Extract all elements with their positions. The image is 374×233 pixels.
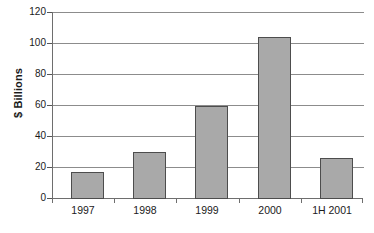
bar-1999[interactable] [195, 106, 228, 199]
x-tick-mark [301, 199, 302, 203]
y-tick-label: 60 [20, 100, 46, 110]
bar-2000[interactable] [258, 37, 291, 199]
x-tick-label-1998: 1998 [114, 204, 176, 217]
x-tick-mark [114, 199, 115, 203]
x-tick-label-1h-2001: 1H 2001 [301, 204, 363, 217]
bars-layer [53, 12, 364, 199]
plot-area [52, 12, 363, 199]
x-axis-tick-labels: 1997 1998 1999 2000 1H 2001 [52, 204, 363, 220]
x-tick-mark [239, 199, 240, 203]
x-tick-label-1999: 1999 [176, 204, 238, 217]
y-axis-tick-labels: 120 100 80 60 40 20 0 [16, 0, 46, 233]
x-tick-label-2000: 2000 [239, 204, 301, 217]
y-tick-label: 0 [20, 193, 46, 203]
y-tick-label: 100 [20, 38, 46, 48]
x-tick-label-1997: 1997 [52, 204, 114, 217]
y-tick-label: 40 [20, 131, 46, 141]
x-tick-mark [52, 199, 53, 203]
y-tick-label: 80 [20, 69, 46, 79]
bar-1997[interactable] [71, 172, 104, 199]
x-tick-mark [176, 199, 177, 203]
y-tick-label: 120 [20, 7, 46, 17]
y-tick-label: 20 [20, 162, 46, 172]
x-tick-mark [362, 199, 363, 203]
bar-1h-2001[interactable] [320, 158, 353, 199]
bar-chart: $ Billions 120 100 80 60 40 20 0 [0, 0, 374, 233]
bar-1998[interactable] [133, 152, 166, 199]
